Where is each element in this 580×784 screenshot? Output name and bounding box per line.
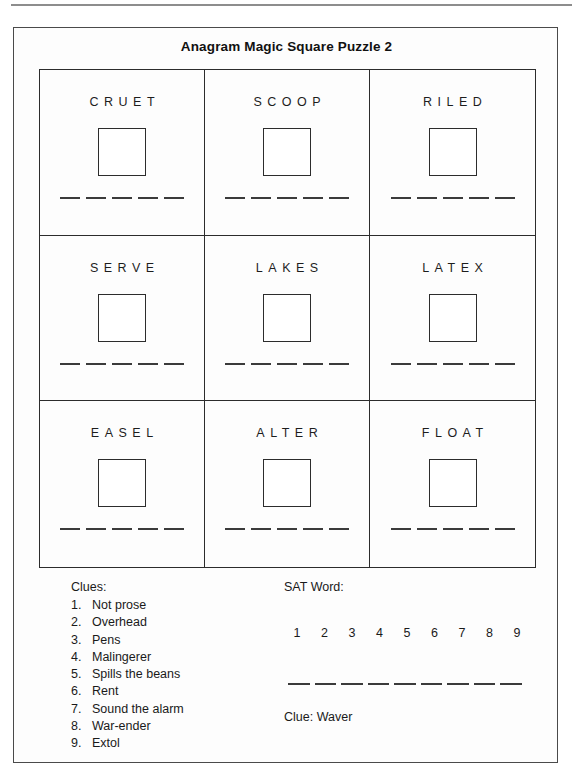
answer-blank[interactable] (469, 197, 489, 199)
answer-blank[interactable] (329, 197, 349, 199)
answer-blank[interactable] (225, 528, 245, 530)
answer-blank[interactable] (417, 363, 437, 365)
answer-blank[interactable] (303, 363, 323, 365)
clue-item-3: 3.Pens (71, 632, 281, 649)
answer-blank[interactable] (391, 363, 411, 365)
cell-word-8: ALTER (205, 426, 369, 440)
answer-blank[interactable] (251, 363, 271, 365)
answer-blank[interactable] (329, 363, 349, 365)
answer-blank[interactable] (112, 528, 132, 530)
cell-answer-blanks-8[interactable] (205, 528, 369, 530)
answer-blank[interactable] (443, 197, 463, 199)
clue-text: Rent (92, 683, 281, 700)
answer-blank[interactable] (86, 363, 106, 365)
answer-blank[interactable] (417, 197, 437, 199)
sat-position-number-7: 7 (457, 626, 467, 640)
answer-blank[interactable] (495, 197, 515, 199)
sat-answer-blank[interactable] (394, 683, 416, 685)
clue-item-7: 7.Sound the alarm (71, 701, 281, 718)
answer-blank[interactable] (443, 363, 463, 365)
sat-answer-blank[interactable] (288, 683, 310, 685)
answer-blank[interactable] (417, 528, 437, 530)
grid-cell-2: SCOOP (205, 70, 370, 236)
answer-blank[interactable] (138, 197, 158, 199)
sat-answer-blank[interactable] (341, 683, 363, 685)
answer-blank[interactable] (138, 528, 158, 530)
sat-answer-blank[interactable] (368, 683, 390, 685)
cell-number-box-5[interactable] (263, 294, 311, 342)
answer-blank[interactable] (112, 197, 132, 199)
cell-number-box-6[interactable] (429, 294, 477, 342)
answer-blank[interactable] (60, 197, 80, 199)
clue-number: 6. (71, 683, 92, 700)
clue-item-9: 9.Extol (71, 735, 281, 752)
answer-blank[interactable] (303, 528, 323, 530)
clue-item-2: 2.Overhead (71, 614, 281, 631)
answer-blank[interactable] (112, 363, 132, 365)
cell-number-box-1[interactable] (98, 128, 146, 176)
grid-cell-9: FLOAT (370, 401, 535, 567)
clue-text: Spills the beans (92, 666, 281, 683)
sat-word-clue: Clue: Waver (284, 710, 352, 724)
sat-answer-blank[interactable] (474, 683, 496, 685)
clue-item-8: 8.War-ender (71, 718, 281, 735)
sat-position-number-6: 6 (430, 626, 440, 640)
clue-number: 8. (71, 718, 92, 735)
grid-cell-3: RILED (370, 70, 535, 236)
answer-blank[interactable] (86, 528, 106, 530)
cell-number-box-9[interactable] (429, 459, 477, 507)
cell-answer-blanks-7[interactable] (40, 528, 204, 530)
clue-number: 5. (71, 666, 92, 683)
answer-blank[interactable] (164, 197, 184, 199)
answer-blank[interactable] (303, 197, 323, 199)
sat-answer-blank[interactable] (315, 683, 337, 685)
answer-blank[interactable] (225, 197, 245, 199)
answer-blank[interactable] (164, 363, 184, 365)
sat-answer-blank[interactable] (421, 683, 443, 685)
clues-list: 1.Not prose2.Overhead3.Pens4.Malingerer5… (71, 597, 281, 753)
cell-answer-blanks-1[interactable] (40, 197, 204, 199)
sat-answer-blank[interactable] (447, 683, 469, 685)
answer-blank[interactable] (495, 528, 515, 530)
clue-number: 9. (71, 735, 92, 752)
magic-square-grid: CRUETSCOOPRILEDSERVELAKESLATEXEASELALTER… (39, 69, 536, 568)
answer-blank[interactable] (60, 528, 80, 530)
answer-blank[interactable] (138, 363, 158, 365)
clue-number: 2. (71, 614, 92, 631)
answer-blank[interactable] (86, 197, 106, 199)
cell-answer-blanks-2[interactable] (205, 197, 369, 199)
cell-number-box-4[interactable] (98, 294, 146, 342)
answer-blank[interactable] (469, 363, 489, 365)
cell-answer-blanks-3[interactable] (370, 197, 535, 199)
answer-blank[interactable] (329, 528, 349, 530)
sat-answer-blanks[interactable] (288, 683, 528, 685)
cell-word-3: RILED (370, 95, 535, 109)
answer-blank[interactable] (277, 363, 297, 365)
answer-blank[interactable] (60, 363, 80, 365)
cell-answer-blanks-9[interactable] (370, 528, 535, 530)
cell-number-box-7[interactable] (98, 459, 146, 507)
sat-answer-blank[interactable] (500, 683, 522, 685)
clue-text: Pens (92, 632, 281, 649)
cell-number-box-2[interactable] (263, 128, 311, 176)
answer-blank[interactable] (391, 528, 411, 530)
puzzle-page-frame: Anagram Magic Square Puzzle 2 CRUETSCOOP… (13, 27, 558, 763)
cell-word-2: SCOOP (205, 95, 369, 109)
answer-blank[interactable] (277, 528, 297, 530)
answer-blank[interactable] (251, 528, 271, 530)
answer-blank[interactable] (443, 528, 463, 530)
clue-item-4: 4.Malingerer (71, 649, 281, 666)
cell-number-box-3[interactable] (429, 128, 477, 176)
answer-blank[interactable] (251, 197, 271, 199)
answer-blank[interactable] (391, 197, 411, 199)
answer-blank[interactable] (277, 197, 297, 199)
cell-number-box-8[interactable] (263, 459, 311, 507)
sat-word-heading: SAT Word: (284, 580, 534, 594)
answer-blank[interactable] (164, 528, 184, 530)
answer-blank[interactable] (225, 363, 245, 365)
cell-answer-blanks-6[interactable] (370, 363, 535, 365)
cell-answer-blanks-4[interactable] (40, 363, 204, 365)
answer-blank[interactable] (469, 528, 489, 530)
answer-blank[interactable] (495, 363, 515, 365)
cell-answer-blanks-5[interactable] (205, 363, 369, 365)
